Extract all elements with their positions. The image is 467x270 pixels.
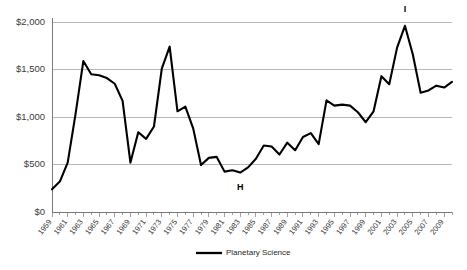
x-tick-label: 1999 xyxy=(350,218,368,237)
x-tick-label: 1977 xyxy=(177,218,195,237)
x-tick-label: 1963 xyxy=(67,218,85,237)
x-axis-tick-labels: 1959196119631965196719691971197319751977… xyxy=(36,218,446,237)
y-tick-label: $0 xyxy=(34,206,45,217)
x-tick-label: 1993 xyxy=(303,218,321,237)
y-axis-tick-labels: $2,000$1,500$1,000$500$0 xyxy=(16,16,45,217)
y-tick-label: $1,500 xyxy=(16,63,45,74)
x-tick-label: 1971 xyxy=(130,218,148,237)
chart-annotations: HI xyxy=(237,4,406,192)
x-tick-label: 2005 xyxy=(397,218,415,237)
x-tick-label: 1981 xyxy=(209,218,227,237)
gridlines xyxy=(52,22,452,212)
y-tick-label: $500 xyxy=(24,158,45,169)
legend-label-planetary-science: Planetary Science xyxy=(226,248,291,257)
x-tick-label: 1991 xyxy=(287,218,305,237)
x-tick-label: 2009 xyxy=(428,218,446,237)
y-tick-label: $2,000 xyxy=(16,16,45,27)
x-axis-tick-marks xyxy=(52,212,452,217)
chart-container: $2,000$1,500$1,000$500$0 195919611963196… xyxy=(0,0,467,270)
x-tick-label: 1973 xyxy=(146,218,164,237)
chart-legend: Planetary Science xyxy=(196,248,291,257)
x-tick-label: 1987 xyxy=(256,218,274,237)
x-tick-label: 1967 xyxy=(99,218,117,237)
x-tick-label: 1979 xyxy=(193,218,211,237)
x-tick-label: 1997 xyxy=(334,218,352,237)
x-tick-label: 2003 xyxy=(381,218,399,237)
x-tick-label: 1995 xyxy=(318,218,336,237)
x-tick-label: 1985 xyxy=(240,218,258,237)
x-tick-label: 2001 xyxy=(365,218,383,237)
x-tick-label: 1975 xyxy=(162,218,180,237)
x-tick-label: 1959 xyxy=(36,218,54,237)
x-tick-label: 1961 xyxy=(52,218,70,237)
annotation-label-h: H xyxy=(237,182,244,192)
x-tick-label: 1989 xyxy=(271,218,289,237)
annotation-label-i: I xyxy=(404,4,407,14)
x-tick-label: 1965 xyxy=(83,218,101,237)
axis-lines xyxy=(52,18,452,212)
x-tick-label: 2007 xyxy=(413,218,431,237)
x-tick-label: 1983 xyxy=(224,218,242,237)
x-tick-label: 1969 xyxy=(115,218,133,237)
y-tick-label: $1,000 xyxy=(16,111,45,122)
line-chart: $2,000$1,500$1,000$500$0 195919611963196… xyxy=(0,0,467,270)
